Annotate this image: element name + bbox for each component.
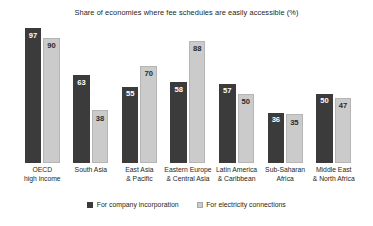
bar-group: 5047 bbox=[309, 24, 358, 163]
bar-column: 90 bbox=[43, 24, 60, 163]
bar-column: 63 bbox=[73, 24, 90, 163]
bar-value-label: 63 bbox=[73, 78, 90, 87]
legend-swatch-icon bbox=[87, 202, 93, 208]
bar-value-label: 38 bbox=[93, 114, 108, 123]
chart-legend: For company incorporationFor electricity… bbox=[0, 201, 373, 209]
x-axis-label: Sub-SaharanAfrica bbox=[261, 166, 310, 183]
x-axis-label-line: Africa bbox=[261, 175, 310, 184]
bar[interactable]: 50 bbox=[238, 94, 255, 164]
bar-column: 36 bbox=[268, 24, 285, 163]
bar-chart-figure: Share of economies where fee schedules a… bbox=[0, 0, 373, 226]
bar-value-label: 57 bbox=[219, 86, 236, 95]
x-axis-label-line: Eastern Europe bbox=[164, 166, 213, 175]
bar-column: 35 bbox=[286, 24, 303, 163]
bar-column: 88 bbox=[189, 24, 206, 163]
x-axis-label-line: & North Africa bbox=[309, 175, 358, 184]
bar-column: 55 bbox=[122, 24, 139, 163]
legend-swatch-icon bbox=[197, 202, 203, 208]
bar[interactable]: 35 bbox=[286, 114, 303, 163]
bar-column: 58 bbox=[170, 24, 187, 163]
legend-item[interactable]: For company incorporation bbox=[87, 201, 178, 209]
bar-column: 97 bbox=[25, 24, 42, 163]
bar[interactable]: 70 bbox=[140, 66, 157, 163]
x-axis-label: OECDhigh income bbox=[18, 166, 67, 183]
bar-value-label: 90 bbox=[44, 41, 59, 50]
x-axis-labels: OECDhigh incomeSouth AsiaEast Asia& Paci… bbox=[18, 166, 358, 192]
bar-column: 70 bbox=[140, 24, 157, 163]
legend-item[interactable]: For electricity connections bbox=[197, 201, 286, 209]
bar[interactable]: 47 bbox=[335, 98, 352, 163]
bar[interactable]: 97 bbox=[25, 28, 42, 163]
legend-label: For electricity connections bbox=[206, 201, 286, 209]
bar-value-label: 50 bbox=[316, 96, 333, 105]
x-axis-label-line: & Central Asia bbox=[164, 175, 213, 184]
bar[interactable]: 63 bbox=[73, 75, 90, 163]
x-axis-label: Eastern Europe& Central Asia bbox=[164, 166, 213, 183]
bar-value-label: 35 bbox=[287, 118, 302, 127]
x-axis-label-line: & Pacific bbox=[115, 175, 164, 184]
bar-value-label: 58 bbox=[170, 85, 187, 94]
x-axis-label-line: high income bbox=[18, 175, 67, 184]
x-axis-label: Middle East& North Africa bbox=[309, 166, 358, 183]
bar-value-label: 47 bbox=[336, 101, 351, 110]
bar-value-label: 88 bbox=[190, 44, 205, 53]
bar[interactable]: 90 bbox=[43, 38, 60, 163]
bar-column: 50 bbox=[316, 24, 333, 163]
chart-title: Share of economies where fee schedules a… bbox=[0, 8, 373, 17]
bar[interactable]: 55 bbox=[122, 87, 139, 163]
x-axis-label-line: Middle East bbox=[309, 166, 358, 175]
bar[interactable]: 38 bbox=[92, 110, 109, 163]
bar-value-label: 36 bbox=[268, 115, 285, 124]
bar-group: 3635 bbox=[261, 24, 310, 163]
x-axis-label-line: Sub-Saharan bbox=[261, 166, 310, 175]
x-axis-label: South Asia bbox=[67, 166, 116, 175]
bar-group: 5570 bbox=[115, 24, 164, 163]
x-axis-label: Latin America& Caribbean bbox=[212, 166, 261, 183]
legend-label: For company incorporation bbox=[97, 201, 179, 209]
x-axis-label-line: OECD bbox=[18, 166, 67, 175]
bar-group: 6338 bbox=[67, 24, 116, 163]
bar-column: 47 bbox=[335, 24, 352, 163]
x-axis-label-line: East Asia bbox=[115, 166, 164, 175]
plot-area: 9790633855705888575036355047 bbox=[18, 24, 358, 163]
x-axis-label-line: Latin America bbox=[212, 166, 261, 175]
bar-value-label: 97 bbox=[25, 31, 42, 40]
x-axis-label-line: South Asia bbox=[67, 166, 116, 175]
bar[interactable]: 88 bbox=[189, 41, 206, 163]
bar-group: 5888 bbox=[164, 24, 213, 163]
bar-value-label: 55 bbox=[122, 89, 139, 98]
bar[interactable]: 57 bbox=[219, 84, 236, 163]
bar[interactable]: 50 bbox=[316, 94, 333, 164]
bar-group: 5750 bbox=[212, 24, 261, 163]
bar-value-label: 70 bbox=[141, 69, 156, 78]
x-axis-label-line: & Caribbean bbox=[212, 175, 261, 184]
bar-column: 38 bbox=[92, 24, 109, 163]
x-axis-label: East Asia& Pacific bbox=[115, 166, 164, 183]
bar-value-label: 50 bbox=[239, 97, 254, 106]
bar-column: 50 bbox=[238, 24, 255, 163]
bar[interactable]: 36 bbox=[268, 113, 285, 163]
bar-group: 9790 bbox=[18, 24, 67, 163]
bar[interactable]: 58 bbox=[170, 82, 187, 163]
bar-column: 57 bbox=[219, 24, 236, 163]
